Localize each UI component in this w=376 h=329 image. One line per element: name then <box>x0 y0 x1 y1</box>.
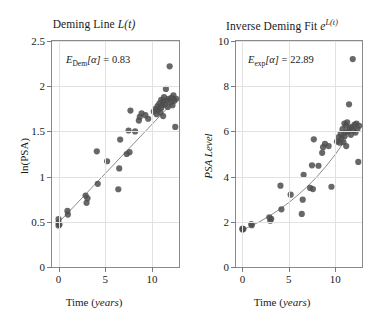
panel-deming-line: Deming Line L(t) 00.511.522.50510 EDem[α… <box>0 0 188 329</box>
data-point <box>344 119 350 125</box>
data-point <box>95 181 101 187</box>
x-axis-tick-label: 5 <box>102 273 108 285</box>
data-point <box>249 222 255 228</box>
y-axis-tick <box>47 41 52 42</box>
y-axis-tick-label: 8 <box>224 80 230 92</box>
x-axis-title-deming: Time (years) <box>0 296 188 308</box>
data-point <box>350 56 356 62</box>
y-axis-tick-label: 2 <box>40 80 46 92</box>
y-axis-tick-label: 1.5 <box>31 125 45 137</box>
panel-title-inverse-exponent: L(t) <box>326 18 338 27</box>
data-point <box>127 108 133 114</box>
y-axis-tick-label: 2 <box>224 216 230 228</box>
y-axis-tick-label: 0.5 <box>31 216 45 228</box>
x-axis-tick-label: 5 <box>286 273 292 285</box>
x-axis-title-deming-units: years <box>95 296 119 308</box>
y-axis-tick <box>231 41 236 42</box>
gridline-vertical <box>289 41 290 267</box>
y-axis-tick <box>231 86 236 87</box>
annotation-exp-efficiency: Eexp[α] = 22.89 <box>248 54 314 68</box>
gridline-horizontal <box>52 131 179 132</box>
gridline-vertical <box>242 41 243 267</box>
gridline-vertical <box>152 41 153 267</box>
y-axis-tick <box>231 131 236 132</box>
data-point <box>167 63 173 69</box>
x-axis-title-inverse: Time (years) <box>188 296 376 308</box>
x-axis-tick-label: 0 <box>240 273 246 285</box>
data-point <box>315 163 321 169</box>
data-point <box>356 123 362 129</box>
y-axis-tick <box>47 131 52 132</box>
x-axis-tick <box>105 267 106 272</box>
gridline-horizontal <box>52 222 179 223</box>
data-point <box>278 206 284 212</box>
y-axis-tick <box>47 86 52 87</box>
data-point <box>115 186 121 192</box>
y-axis-tick <box>47 267 52 268</box>
fit-line <box>59 99 177 223</box>
annot-sub-right: exp <box>254 59 265 68</box>
y-axis-tick <box>231 222 236 223</box>
y-axis-tick <box>231 267 236 268</box>
data-point <box>355 159 361 165</box>
y-axis-tick <box>47 177 52 178</box>
y-axis-title-deming: ln(PSA) <box>18 126 30 186</box>
data-point <box>84 195 90 201</box>
data-point <box>300 197 306 203</box>
x-axis-tick <box>335 267 336 272</box>
panel-title-deming-math: L(t) <box>118 18 136 30</box>
gridline-horizontal <box>236 222 362 223</box>
data-point <box>65 211 71 217</box>
y-axis-tick-label: 0 <box>40 261 46 273</box>
annot-value-right: 22.89 <box>290 54 314 65</box>
y-axis-title-deming-text: ln(PSA) <box>18 138 30 174</box>
gridline-horizontal <box>236 177 362 178</box>
plot-area-inverse: 02468100510 <box>235 40 363 268</box>
panel-title-deming: Deming Line L(t) <box>0 18 188 30</box>
gridline-horizontal <box>236 41 362 42</box>
gridline-horizontal <box>52 177 179 178</box>
x-axis-tick <box>152 267 153 272</box>
data-point <box>94 148 100 154</box>
x-axis-tick-label: 0 <box>56 273 62 285</box>
data-point <box>172 124 178 130</box>
annot-arg-right: [α] <box>265 54 279 65</box>
annot-arg-left: [α] <box>87 54 101 65</box>
data-point <box>309 162 315 168</box>
annotation-deming-efficiency: EDem[α] = 0.83 <box>66 54 130 68</box>
panel-title-inverse-text: Inverse Deming Fit <box>226 20 317 32</box>
panel-title-inverse: Inverse Deming Fit eL(t) <box>188 18 376 32</box>
data-point <box>326 143 332 149</box>
gridline-horizontal <box>52 41 179 42</box>
y-axis-tick-label: 6 <box>224 125 230 137</box>
y-axis-tick-label: 1 <box>40 171 46 183</box>
data-point <box>160 113 166 119</box>
data-point <box>328 184 334 190</box>
y-axis-title-inverse: PSA Level <box>202 126 214 186</box>
data-point <box>116 165 122 171</box>
data-point <box>310 186 316 192</box>
scatter-layer-inverse <box>236 41 364 269</box>
figure-two-panel-psa-deming: Deming Line L(t) 00.511.522.50510 EDem[α… <box>0 0 376 329</box>
data-point <box>346 101 352 107</box>
annot-value-left: 0.83 <box>112 54 130 65</box>
data-point <box>145 116 151 122</box>
plot-area-deming: 00.511.522.50510 <box>51 40 180 268</box>
x-axis-title-inverse-units: years <box>283 296 307 308</box>
x-axis-tick <box>289 267 290 272</box>
x-axis-tick-label: 10 <box>146 273 157 285</box>
y-axis-tick-label: 2.5 <box>31 35 45 47</box>
gridline-horizontal <box>236 86 362 87</box>
data-point <box>277 183 283 189</box>
y-axis-title-inverse-text: PSA Level <box>202 133 214 178</box>
gridline-vertical <box>59 41 60 267</box>
scatter-layer-deming <box>52 41 181 269</box>
x-axis-tick-label: 10 <box>330 273 341 285</box>
data-point <box>319 150 325 156</box>
gridline-vertical <box>335 41 336 267</box>
x-axis-title-inverse-text: Time <box>254 296 277 308</box>
y-axis-tick <box>231 177 236 178</box>
gridline-horizontal <box>236 131 362 132</box>
y-axis-tick-label: 4 <box>224 171 230 183</box>
data-point <box>311 136 317 142</box>
